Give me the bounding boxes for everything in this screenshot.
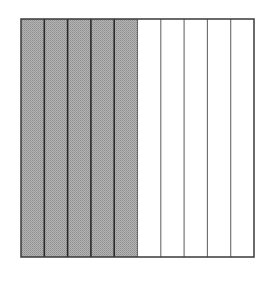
unshaded-strip <box>231 19 254 257</box>
shaded-strip <box>21 19 44 257</box>
unshaded-strip <box>161 19 184 257</box>
unshaded-strip <box>207 19 230 257</box>
shaded-strip <box>91 19 114 257</box>
shaded-strip <box>44 19 67 257</box>
fraction-diagram <box>0 0 274 284</box>
shaded-strip <box>68 19 91 257</box>
unshaded-strip <box>184 19 207 257</box>
unshaded-strip <box>138 19 161 257</box>
shaded-strip <box>114 19 137 257</box>
strip-group <box>21 19 254 257</box>
